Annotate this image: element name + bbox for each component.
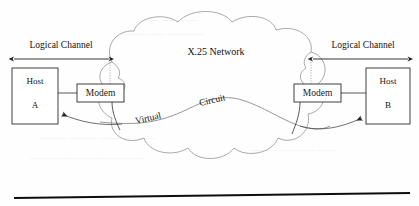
svg-text:——— —— ————: ——— —— ————: [117, 28, 205, 38]
host-b-node: Host B: [366, 68, 410, 124]
modem-right-node: Modem: [294, 84, 341, 102]
svg-text:———— ——— —————: ———— ——— —————: [29, 152, 144, 162]
host-a-node: Host A: [12, 68, 58, 124]
bottom-horizontal-rule: [14, 193, 410, 198]
left-logical-channel-label: Logical Channel: [29, 40, 92, 50]
modem-left-label: Modem: [86, 88, 116, 98]
svg-text:——— ———— ——: ——— ———— ——: [249, 144, 337, 154]
host-b-label-bottom: B: [385, 100, 391, 110]
left-modem-cloud-tail: [112, 102, 120, 130]
right-logical-channel: Logical Channel: [313, 40, 408, 59]
virtual-circuit-word-2: Circuit: [198, 92, 226, 108]
virtual-circuit-endpoint-arrows: [62, 114, 362, 129]
left-logical-channel: Logical Channel: [14, 40, 109, 59]
virtual-circuit-word-1: Virtual: [134, 110, 162, 126]
cloud-cusp-details: [112, 52, 311, 92]
host-a-label-top: Host: [26, 76, 44, 86]
host-a-label-bottom: A: [32, 100, 39, 110]
right-logical-channel-label: Logical Channel: [331, 40, 394, 50]
x25-network-diagram: — ———— ——— —— ———— ——— ——— ———— —— ———— …: [0, 0, 419, 206]
cloud-label-x25-network: X.25 Network: [187, 46, 244, 57]
host-b-label-top: Host: [379, 76, 397, 86]
diagram-canvas: — ———— ——— —— ———— ——— ——— ———— —— ———— …: [0, 0, 419, 206]
modem-left-node: Modem: [77, 84, 124, 102]
modem-right-label: Modem: [303, 88, 333, 98]
svg-text:——— ——— ———— ——: ——— ——— ———— ——: [39, 132, 156, 142]
right-modem-cloud-tail: [292, 102, 300, 134]
